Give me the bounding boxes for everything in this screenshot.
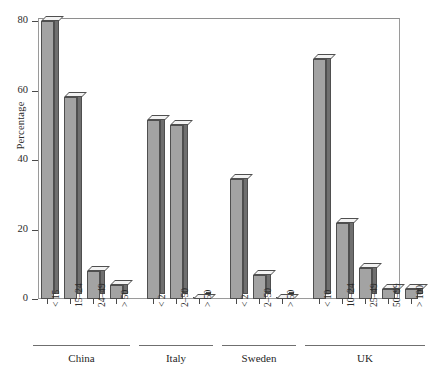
bar bbox=[313, 54, 331, 299]
bar-top bbox=[336, 218, 359, 223]
x-category-label: < 10 bbox=[323, 290, 333, 307]
y-tick-label: 0 bbox=[4, 292, 28, 303]
bar-side bbox=[77, 92, 82, 294]
bar-side bbox=[54, 16, 59, 294]
bar-front bbox=[147, 120, 160, 299]
x-tick bbox=[319, 299, 320, 304]
y-tick-label: 40 bbox=[4, 153, 28, 164]
x-category-label: > 50 bbox=[286, 290, 296, 307]
x-category-label: > 50 bbox=[203, 290, 213, 307]
x-category-label: 15–24 bbox=[74, 283, 84, 307]
y-tick-label: 20 bbox=[4, 223, 28, 234]
x-tick bbox=[259, 299, 260, 304]
bar bbox=[230, 174, 248, 299]
x-tick bbox=[411, 299, 412, 304]
group-bracket-line bbox=[139, 345, 213, 346]
y-tick-label: 60 bbox=[4, 84, 28, 95]
bar bbox=[170, 120, 188, 299]
x-category-label: 50–99 bbox=[392, 283, 402, 307]
x-tick bbox=[365, 299, 366, 304]
y-tick bbox=[32, 299, 38, 300]
x-tick bbox=[116, 299, 117, 304]
group-bracket-line bbox=[305, 345, 425, 346]
x-tick bbox=[47, 299, 48, 304]
group-label: China bbox=[32, 352, 132, 364]
x-category-label: < 2 bbox=[157, 295, 167, 307]
bar bbox=[41, 16, 59, 299]
x-tick bbox=[342, 299, 343, 304]
y-tick bbox=[32, 21, 38, 22]
x-category-label: 2–50 bbox=[180, 288, 190, 307]
group-bracket-line bbox=[222, 345, 296, 346]
bar-front bbox=[41, 21, 54, 299]
x-tick bbox=[153, 299, 154, 304]
x-category-label: < 15 bbox=[51, 290, 61, 307]
x-category-label: > 100 bbox=[415, 285, 425, 307]
x-tick bbox=[236, 299, 237, 304]
x-category-label: 10–24 bbox=[346, 283, 356, 307]
group-bracket-line bbox=[33, 345, 130, 346]
x-tick bbox=[199, 299, 200, 304]
bar-front bbox=[230, 179, 243, 299]
group-label: UK bbox=[315, 352, 415, 364]
bar-front bbox=[170, 125, 183, 299]
bar-side bbox=[160, 115, 165, 294]
x-tick bbox=[93, 299, 94, 304]
x-category-label: 24–49 bbox=[97, 283, 107, 307]
x-category-label: < 2 bbox=[240, 295, 250, 307]
x-tick bbox=[388, 299, 389, 304]
bar-front bbox=[64, 97, 77, 299]
bar bbox=[147, 115, 165, 299]
x-tick bbox=[70, 299, 71, 304]
bar-side bbox=[243, 174, 248, 294]
bar-side bbox=[183, 120, 188, 294]
bar-front bbox=[313, 59, 326, 299]
x-category-label: > 50 bbox=[120, 290, 130, 307]
bar-top bbox=[253, 270, 276, 275]
y-tick bbox=[32, 91, 38, 92]
y-tick-label: 80 bbox=[4, 14, 28, 25]
x-tick bbox=[176, 299, 177, 304]
x-category-label: 2–50 bbox=[263, 288, 273, 307]
x-tick bbox=[282, 299, 283, 304]
x-category-label: 25–49 bbox=[369, 283, 379, 307]
bar-side bbox=[326, 54, 331, 294]
y-tick bbox=[32, 160, 38, 161]
bar bbox=[64, 92, 82, 299]
y-tick bbox=[32, 230, 38, 231]
group-label: Sweden bbox=[209, 352, 309, 364]
